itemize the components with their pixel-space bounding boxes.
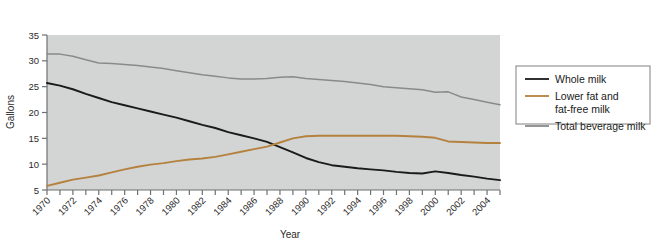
legend-label: Whole milk: [555, 73, 607, 85]
legend-label: Lower fat and: [555, 90, 619, 102]
y-tick-label: 35: [28, 30, 39, 41]
y-tick-label: 20: [28, 107, 39, 118]
y-tick-label: 15: [28, 133, 39, 144]
plot-area-background: [47, 35, 500, 190]
y-tick-label: 10: [28, 159, 39, 170]
y-axis-label: Gallons: [5, 95, 16, 129]
chart-legend: Whole milkLower fat andfat-free milkTota…: [516, 66, 650, 132]
y-tick-label: 30: [28, 55, 39, 66]
y-tick-label: 5: [34, 185, 39, 196]
legend-label-line2: fat-free milk: [555, 103, 611, 115]
x-axis-label: Year: [280, 229, 301, 240]
line-chart-figure: 5101520253035 19701972197419761978198019…: [0, 0, 657, 246]
legend-label: Total beverage milk: [555, 120, 646, 132]
y-tick-label: 25: [28, 81, 39, 92]
